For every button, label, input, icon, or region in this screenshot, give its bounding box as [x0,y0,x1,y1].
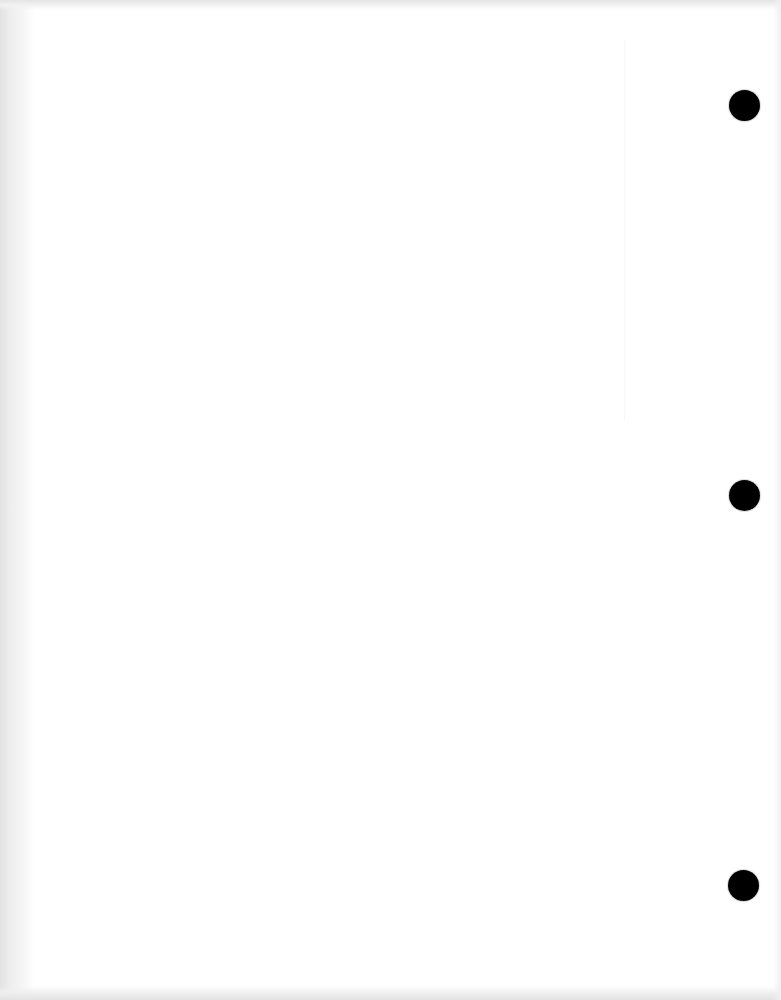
punch-hole-top [729,90,760,121]
scan-edge-shadow-left [0,0,34,1000]
scan-edge-shadow-top [0,0,781,10]
punch-hole-middle [729,480,760,511]
blank-scanned-page [0,0,781,1000]
scan-artifact-line [624,40,625,420]
scan-edge-shadow-bottom [0,986,781,1000]
punch-hole-bottom [728,870,759,901]
scan-edge-shadow-right [773,0,781,1000]
